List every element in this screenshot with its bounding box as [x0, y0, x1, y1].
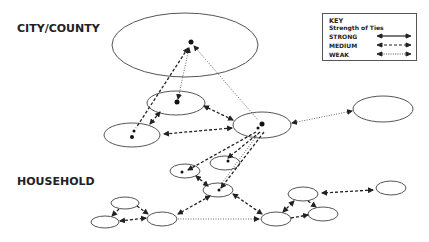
node-hh-i [308, 207, 338, 221]
nodes [91, 13, 413, 228]
network-diagram [0, 0, 429, 242]
node-dots [130, 40, 265, 192]
node-hh-b [210, 156, 240, 170]
node-hh-a [170, 164, 200, 178]
node-hh-h [288, 187, 318, 201]
node-hh-f [147, 212, 177, 226]
node-hh-d [111, 197, 139, 209]
node-hh-g [261, 212, 291, 226]
node-hh-e [91, 216, 119, 228]
node-hh-j [376, 181, 406, 195]
node-city-large [112, 13, 258, 77]
node-far-right [353, 96, 413, 122]
